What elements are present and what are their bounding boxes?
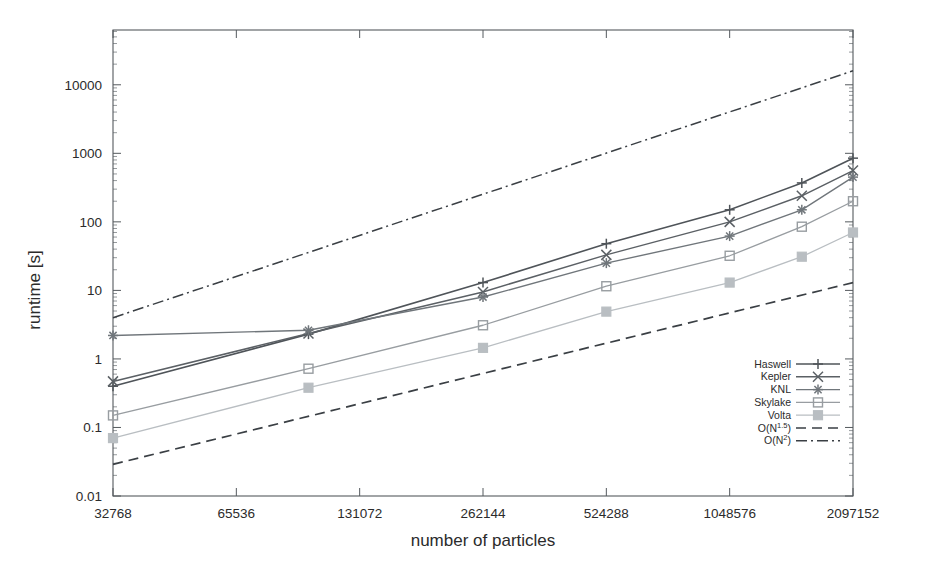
- series-path: [113, 177, 853, 335]
- x-tick-label: 1048576: [703, 506, 756, 521]
- x-tick-label: 65536: [218, 506, 256, 521]
- data-point-marker: [303, 325, 313, 335]
- x-tick-label: 524288: [584, 506, 629, 521]
- data-point-marker: [601, 258, 611, 268]
- series-knl: [108, 172, 858, 340]
- legend-label: Haswell: [754, 358, 791, 370]
- x-tick-label: 2097152: [827, 506, 880, 521]
- series-path: [113, 232, 853, 438]
- y-tick-label: 10: [87, 283, 102, 298]
- data-point-marker: [109, 434, 118, 443]
- chart-figure: 0.010.1110100100010000 32768655361310722…: [0, 0, 926, 572]
- y-tick-label: 0.01: [76, 489, 102, 504]
- y-tick-label: 1000: [72, 146, 102, 161]
- y-axis-title: runtime [s]: [25, 250, 44, 329]
- data-point-marker: [108, 330, 118, 340]
- series-path: [113, 283, 853, 465]
- series-o-n-1-5: [113, 283, 853, 465]
- x-axis-tick-labels: 3276865536131072262144524288104857620971…: [94, 506, 879, 521]
- data-point-marker: [797, 252, 806, 261]
- data-point-marker: [813, 385, 823, 395]
- data-point-marker: [725, 205, 735, 215]
- runtime-vs-particles-chart: 0.010.1110100100010000 32768655361310722…: [0, 0, 926, 572]
- y-axis-tick-labels: 0.010.1110100100010000: [64, 78, 102, 504]
- y-tick-label: 10000: [64, 78, 102, 93]
- x-tick-label: 32768: [94, 506, 132, 521]
- data-point-marker: [813, 359, 823, 369]
- series-path: [113, 201, 853, 415]
- legend-label: Kepler: [761, 370, 792, 382]
- series-kepler: [108, 166, 858, 387]
- data-point-marker: [814, 411, 823, 420]
- data-point-marker: [108, 381, 118, 391]
- data-point-marker: [479, 343, 488, 352]
- plot-frame: [113, 30, 853, 496]
- data-point-marker: [602, 307, 611, 316]
- data-point-marker: [797, 205, 807, 215]
- data-point-marker: [848, 153, 858, 163]
- legend-label: O(N2): [764, 433, 791, 446]
- legend-label: Skylake: [754, 396, 791, 408]
- data-point-marker: [797, 191, 807, 201]
- major-tick-marks: [113, 30, 853, 496]
- legend-label: O(N1.5): [758, 421, 791, 434]
- chart-legend: HaswellKeplerKNLSkylakeVoltaO(N1.5)O(N2): [754, 358, 840, 447]
- series-volta: [109, 228, 858, 443]
- legend-label: Volta: [768, 409, 792, 421]
- y-tick-label: 1: [94, 352, 102, 367]
- y-tick-label: 0.1: [83, 420, 102, 435]
- data-point-marker: [478, 278, 488, 288]
- x-tick-label: 131072: [337, 506, 382, 521]
- data-point-marker: [725, 278, 734, 287]
- x-axis-title: number of particles: [411, 531, 556, 550]
- data-point-marker: [797, 178, 807, 188]
- data-point-marker: [304, 383, 313, 392]
- legend-label: KNL: [771, 383, 792, 395]
- data-series-layer: [108, 71, 858, 465]
- minor-tick-marks: [113, 31, 853, 475]
- y-tick-label: 100: [79, 215, 102, 230]
- data-point-marker: [848, 172, 858, 182]
- data-point-marker: [478, 292, 488, 302]
- x-tick-label: 262144: [460, 506, 506, 521]
- data-point-marker: [725, 231, 735, 241]
- data-point-marker: [849, 228, 858, 237]
- data-point-marker: [725, 217, 735, 227]
- data-point-marker: [601, 239, 611, 249]
